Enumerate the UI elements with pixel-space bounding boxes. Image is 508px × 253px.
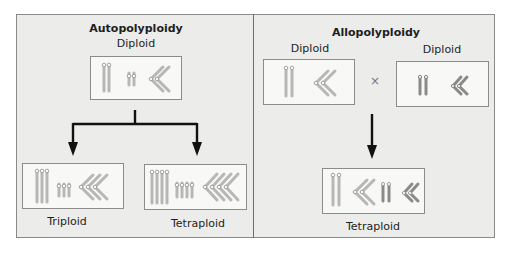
- triploid-box: [22, 163, 124, 209]
- chromosome-set-icon: [397, 62, 490, 108]
- allopolyploidy-title: Allopolyploidy: [332, 26, 420, 39]
- chromosome-set-icon: [264, 60, 356, 106]
- triploid-label: Triploid: [47, 215, 87, 228]
- chromosome-set-icon: [323, 169, 426, 215]
- allo-parent2-label: Diploid: [423, 43, 461, 56]
- cross-symbol: ×: [370, 74, 380, 88]
- allo-parent2-box: [396, 61, 489, 107]
- auto-tetraploid-label: Tetraploid: [171, 217, 225, 230]
- chromosome-set-icon: [23, 164, 125, 210]
- chromosome-set-icon: [145, 165, 248, 211]
- allo-parent1-label: Diploid: [291, 42, 329, 55]
- allo-tetraploid-label: Tetraploid: [346, 220, 400, 233]
- allo-parent1-box: [263, 59, 355, 105]
- auto-tetraploid-box: [144, 164, 247, 210]
- allo-tetraploid-box: [322, 168, 425, 214]
